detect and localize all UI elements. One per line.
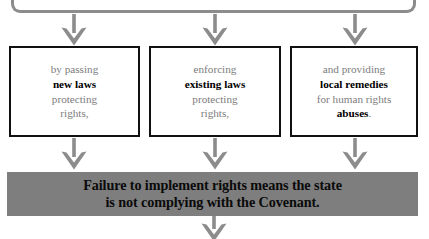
box-local-remedies-line-1: and providing <box>323 63 385 75</box>
box-existing-laws-line-1: enforcing <box>194 63 237 75</box>
box-local-remedies-line-4: abuses <box>337 107 369 119</box>
box-new-laws-text: by passing new laws protecting rights, <box>47 62 103 121</box>
box-local-remedies: and providing local remedies for human r… <box>290 46 418 137</box>
banner-line-1: Failure to implement rights means the st… <box>83 177 342 193</box>
arrow-down-from-existing-laws-icon <box>200 138 230 172</box>
box-existing-laws: enforcing existing laws protecting right… <box>149 46 281 137</box>
banner-text: Failure to implement rights means the st… <box>83 177 342 211</box>
box-local-remedies-line-2: local remedies <box>320 78 388 90</box>
box-existing-laws-line-2: existing laws <box>185 78 246 90</box>
box-local-remedies-text: and providing local remedies for human r… <box>313 62 396 121</box>
box-existing-laws-line-4: rights, <box>201 107 229 119</box>
banner-failure-statement: Failure to implement rights means the st… <box>7 172 418 216</box>
box-new-laws-line-2: new laws <box>53 78 96 90</box>
box-new-laws-line-1: by passing <box>51 63 99 75</box>
box-new-laws-line-4: rights, <box>60 107 88 119</box>
arrow-down-to-local-remedies-icon <box>340 14 370 48</box>
banner-line-2: is not complying with the Covenant. <box>105 194 319 210</box>
diagram-canvas: by passing new laws protecting rights, e… <box>0 0 429 239</box>
box-local-remedies-line-3: for human rights <box>317 93 392 105</box>
box-local-remedies-line-4-period: . <box>368 107 371 119</box>
arrow-down-to-existing-laws-icon <box>200 14 230 48</box>
arrow-down-from-local-remedies-icon <box>340 138 370 172</box>
arrow-down-from-banner-icon <box>199 216 229 239</box>
box-new-laws: by passing new laws protecting rights, <box>9 46 140 137</box>
box-existing-laws-text: enforcing existing laws protecting right… <box>181 62 250 121</box>
box-new-laws-line-3: protecting <box>52 93 97 105</box>
arrow-down-from-new-laws-icon <box>59 138 89 172</box>
box-existing-laws-line-3: protecting <box>192 93 237 105</box>
top-bracket-connector <box>11 0 416 13</box>
arrow-down-to-new-laws-icon <box>59 14 89 48</box>
